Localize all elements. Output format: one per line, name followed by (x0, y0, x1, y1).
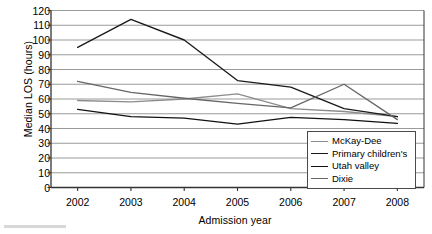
chart-legend: McKay-Dee Primary children's Utah valley… (307, 131, 416, 189)
plot-area (0, 0, 432, 234)
legend-swatch-mckay-dee (311, 141, 328, 142)
legend-swatch-primary-childrens (311, 153, 328, 154)
legend-item-dixie: Dixie (311, 173, 411, 186)
scan-artifact (4, 225, 66, 228)
legend-label-utah-valley: Utah valley (332, 161, 379, 171)
legend-item-utah-valley: Utah valley (311, 160, 411, 173)
legend-swatch-dixie (311, 178, 328, 179)
legend-item-mckay-dee: McKay-Dee (311, 135, 411, 148)
legend-label-dixie: Dixie (332, 174, 353, 184)
data-series-lines (78, 19, 398, 124)
chart-figure: Median LOS (hours) 010203040506070809010… (0, 0, 432, 234)
legend-item-primary-childrens: Primary children's (311, 148, 411, 161)
legend-label-mckay-dee: McKay-Dee (332, 136, 382, 146)
legend-swatch-utah-valley (311, 166, 328, 167)
legend-label-primary-childrens: Primary children's (332, 149, 407, 159)
